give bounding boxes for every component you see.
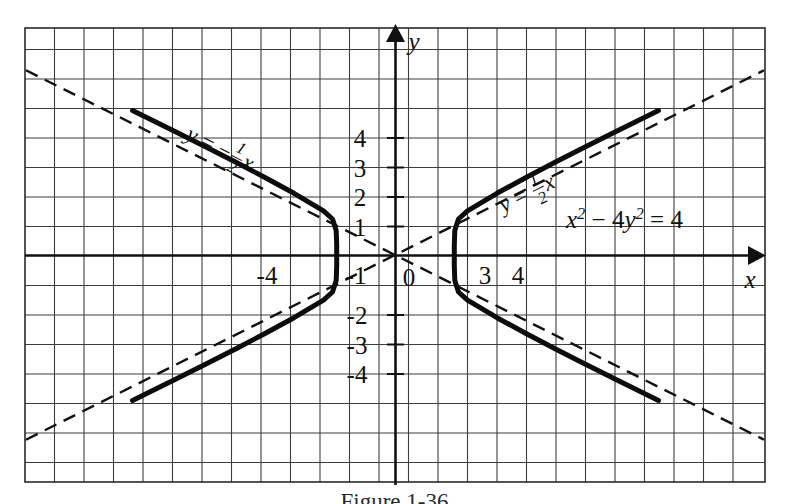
x-axis-arrow-icon (748, 246, 766, 265)
equation-right-side: 4 (670, 206, 683, 233)
x-tick-label-3: 3 (479, 262, 492, 289)
figure-page: 4 3 2 1 -2 -3 -4 -4 -1 0 3 4 y x x2 − 4y… (0, 0, 789, 504)
y-tick-label-minus3: -3 (347, 332, 368, 359)
y-tick-label-minus2: -2 (347, 302, 368, 329)
x-tick-label-4: 4 (512, 262, 525, 289)
equation-var-y: y (624, 206, 635, 233)
equation-exponent-2: 2 (636, 204, 644, 223)
y-tick-label-3: 3 (354, 155, 367, 182)
y-axis-arrow-icon (386, 24, 405, 42)
x-axis-label: x (743, 266, 755, 293)
origin-label: 0 (403, 264, 416, 291)
y-axis-label: y (405, 28, 420, 55)
figure-caption: Figure 1-36 (0, 489, 789, 504)
hyperbola-plot: 4 3 2 1 -2 -3 -4 -4 -1 0 3 4 y x (0, 0, 789, 504)
y-tick-label-1: 1 (354, 214, 367, 241)
y-tick-label-2: 2 (354, 184, 367, 211)
x-tick-label-minus4: -4 (257, 262, 278, 289)
x-tick-label-minus1: -1 (346, 262, 367, 289)
y-tick-label-4: 4 (354, 125, 367, 152)
hyperbola-equation-label: x2 − 4y2 = 4 (566, 206, 683, 232)
equation-equals-sign: = (650, 206, 664, 233)
y-tick-label-minus4: -4 (347, 361, 368, 388)
equation-minus-sign: − (592, 206, 606, 233)
equation-var-x: x (566, 206, 577, 233)
equation-coefficient: 4 (612, 206, 625, 233)
